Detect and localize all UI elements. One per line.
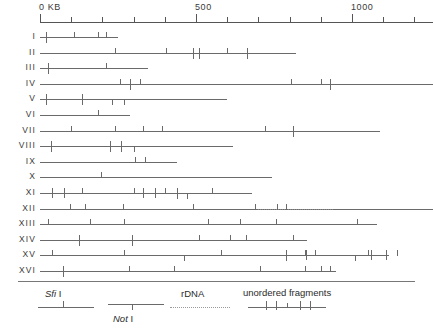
unordered-fragment-box: [52, 188, 65, 198]
sfi-site: [227, 48, 228, 54]
sfi-site: [145, 157, 146, 163]
axis-baseline: [40, 22, 433, 23]
axis-tick: [258, 17, 259, 23]
sfi-site: [123, 204, 124, 210]
chromosome-backbone: [40, 68, 148, 69]
not-site: [177, 193, 178, 199]
axis-tick-label: 1000: [351, 2, 373, 12]
sfi-site: [124, 250, 125, 256]
chromosome-label-xi: XI: [0, 187, 36, 197]
legend-fragment-box-2: [300, 301, 311, 310]
not-site: [48, 68, 49, 74]
axis-tick: [102, 17, 103, 23]
not-site: [130, 84, 131, 90]
sfi-site: [240, 219, 241, 225]
axis-tick: [352, 14, 353, 23]
axis-tick: [321, 17, 322, 23]
axis-tick-label: 0 KB: [39, 2, 61, 12]
sfi-site: [82, 188, 83, 194]
sfi-site: [212, 188, 213, 194]
not-site: [112, 99, 113, 105]
sfi-site: [135, 157, 136, 163]
chromosome-label-v: V: [0, 93, 36, 103]
sfi-site: [277, 204, 278, 210]
sfi-site: [265, 126, 266, 132]
sfi-site: [357, 219, 358, 225]
chromosome-label-ix: IX: [0, 156, 36, 166]
legend-sfi-line: [38, 307, 94, 308]
sfi-site: [129, 266, 130, 272]
legend-not-line: [108, 304, 164, 305]
not-site: [184, 255, 185, 261]
legend-divider: [18, 281, 415, 282]
sfi-site: [174, 266, 175, 272]
not-site: [51, 146, 52, 152]
not-site: [63, 271, 64, 277]
legend-fragment-box-1: [266, 301, 277, 310]
not-site: [134, 146, 135, 152]
not-site: [293, 131, 294, 137]
chromosome-map-figure: 0 KB50010001500 IIIIIIIVVVIVIIVIIIIXXXIX…: [0, 0, 433, 331]
sfi-site: [71, 126, 72, 132]
sfi-site: [166, 48, 167, 54]
not-site: [121, 146, 122, 152]
sfi-site: [260, 266, 261, 272]
sfi-site: [291, 79, 292, 85]
chromosome-backbone: [40, 53, 296, 54]
axis-tick: [414, 17, 415, 23]
sfi-site: [165, 188, 166, 194]
sfi-site: [48, 219, 49, 225]
legend-unordered-tick: [287, 303, 288, 308]
sfi-site: [315, 250, 316, 256]
rdna-region: [258, 209, 333, 210]
sfi-site: [321, 79, 322, 85]
chromosome-label-viii: VIII: [0, 140, 36, 150]
unordered-fragment-box: [286, 250, 307, 260]
sfi-site: [321, 266, 322, 272]
axis-tick: [383, 17, 384, 23]
sfi-site: [246, 235, 247, 241]
chromosome-label-i: I: [0, 31, 36, 41]
axis-tick: [196, 14, 197, 23]
not-site: [187, 193, 188, 199]
axis-tick: [134, 17, 135, 23]
sfi-site: [230, 235, 231, 241]
sfi-site: [208, 219, 209, 225]
sfi-site: [143, 126, 144, 132]
legend-rdna-dots: [170, 307, 230, 308]
legend-unordered-label: unordered fragments: [243, 287, 331, 298]
axis-tick: [71, 17, 72, 23]
chromosome-backbone: [40, 177, 272, 178]
not-site: [247, 53, 248, 59]
chromosome-label-iii: III: [0, 62, 36, 72]
chromosome-backbone: [40, 131, 380, 132]
axis-tick: [227, 17, 228, 23]
sfi-site: [124, 219, 125, 225]
chromosome-backbone: [40, 271, 336, 272]
sfi-site: [330, 266, 331, 272]
sfi-site: [397, 250, 398, 256]
sfi-site: [74, 32, 75, 38]
sfi-site: [134, 188, 135, 194]
not-site: [46, 37, 47, 43]
sfi-site: [286, 204, 287, 210]
chromosome-label-xiv: XIV: [0, 234, 36, 244]
not-site: [46, 99, 47, 105]
sfi-site: [106, 32, 107, 38]
chromosome-label-xv: XV: [0, 249, 36, 259]
sfi-site: [101, 172, 102, 178]
not-site: [124, 99, 125, 105]
chromosome-backbone: [40, 209, 433, 210]
sfi-site: [199, 235, 200, 241]
chromosome-label-iv: IV: [0, 78, 36, 88]
not-site: [330, 84, 331, 90]
sfi-site: [120, 79, 121, 85]
chromosome-backbone: [40, 146, 233, 147]
sfi-site: [98, 110, 99, 116]
chromosome-label-xiii: XIII: [0, 218, 36, 228]
legend-sfi-gene: Sfi: [45, 288, 56, 299]
axis-tick: [290, 17, 291, 23]
sfi-site: [305, 266, 306, 272]
legend-rdna-label: rDNA: [181, 288, 204, 299]
sfi-site: [193, 204, 194, 210]
